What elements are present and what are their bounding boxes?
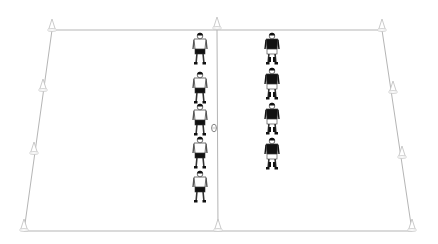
player-hair [197,33,203,36]
halfway-line [217,30,218,231]
player-boot-right [275,132,279,135]
player-boot-left [266,62,270,65]
player-boot-left [266,97,270,100]
cone-icon [48,19,57,31]
white-team [193,33,207,203]
player-sock [273,127,276,132]
player-icon [265,33,279,65]
cone-base [398,156,407,159]
player-boot-left [194,166,198,169]
player-boot-left [194,101,198,104]
cone-base [213,27,222,30]
cone-base [389,91,398,94]
cone-icon [213,17,222,29]
player-icon [265,103,279,135]
player-shirt [194,177,206,187]
player-sock [269,57,272,62]
player-boot-right [275,97,279,100]
player-hair [197,72,203,75]
player-shirt [194,110,206,120]
player-shirt [266,74,278,84]
player-icon [265,138,279,170]
player-hair [269,138,275,141]
player-icon [193,104,207,136]
player-hair [269,33,275,36]
cone-base [408,229,417,232]
player-icon [193,72,207,104]
field-canvas [0,0,438,244]
player-sock [269,162,272,167]
cone-icon [39,79,48,91]
cone-icon [214,219,223,231]
player-sock [269,92,272,97]
player-sock [269,127,272,132]
pitch-outline [24,30,412,231]
player-shirt [266,39,278,49]
player-boot-right [275,167,279,170]
cone-icon [20,219,29,231]
player-shirt [266,109,278,119]
player-hair [197,104,203,107]
player-boot-left [266,132,270,135]
cone-icon [398,146,407,158]
rugby-ball-icon [212,124,217,132]
player-hair [197,137,203,140]
player-hair [269,103,275,106]
black-team [265,33,279,170]
cone-icon [378,19,387,31]
cone-icon [30,142,39,154]
player-boot-right [203,62,207,65]
player-shirt [266,144,278,154]
player-hair [197,171,203,174]
player-sock [273,162,276,167]
players-layer [193,33,279,203]
player-boot-left [194,200,198,203]
player-icon [193,33,207,65]
player-icon [265,68,279,100]
cone-base [20,229,29,232]
player-boot-left [194,62,198,65]
cone-icon [408,219,417,231]
cone-base [30,152,39,155]
cone-base [39,89,48,92]
player-icon [193,137,207,169]
player-boot-right [203,166,207,169]
player-boot-right [203,101,207,104]
player-boot-right [275,62,279,65]
player-hair [269,68,275,71]
cone-base [48,29,57,32]
cone-base [378,29,387,32]
player-shirt [194,78,206,88]
drill-diagram [0,0,438,244]
player-boot-right [203,200,207,203]
cone-base [214,229,223,232]
player-boot-right [203,133,207,136]
player-boot-left [266,167,270,170]
player-sock [273,57,276,62]
player-shirt [194,143,206,153]
player-shirt [194,39,206,49]
player-boot-left [194,133,198,136]
player-icon [193,171,207,203]
player-sock [273,92,276,97]
